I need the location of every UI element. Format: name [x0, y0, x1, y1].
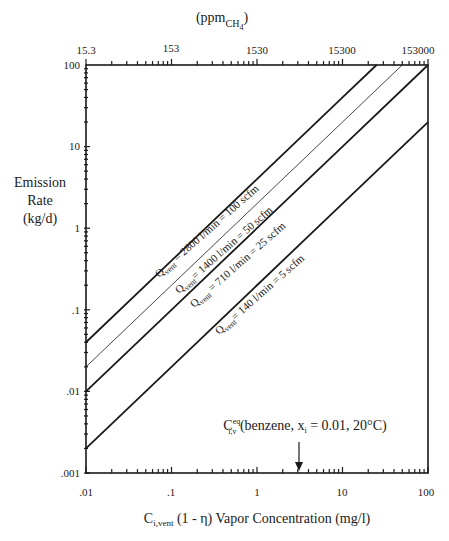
- svg-text:100: 100: [418, 486, 435, 498]
- svg-text:Rate: Rate: [27, 193, 53, 208]
- top-tick-labels: 15.3 153 1530 15300 153000: [76, 42, 435, 56]
- svg-text:1530: 1530: [246, 44, 269, 56]
- svg-text:1: 1: [75, 222, 81, 234]
- y-tick-labels: 100 10 1 .1 .01 .001: [61, 59, 81, 479]
- svg-text:1: 1: [254, 486, 260, 498]
- svg-text:.001: .001: [61, 467, 80, 479]
- plot-frame: [86, 65, 428, 473]
- svg-text:10: 10: [337, 486, 349, 498]
- svg-text:100: 100: [64, 59, 81, 71]
- x-tick-labels: .01 .1 1 10 100: [79, 486, 435, 498]
- svg-text:Ceqi,v (benzene, xi = 0.01, 20: Ceqi,v (benzene, xi = 0.01, 20°C): [223, 417, 387, 436]
- series-line-3: [86, 122, 428, 448]
- series-line-2: [86, 65, 428, 391]
- series-lines: [86, 65, 428, 448]
- arrow-down-icon: [295, 462, 303, 471]
- series-line-1: [86, 65, 402, 367]
- svg-text:.1: .1: [72, 304, 80, 316]
- svg-text:15300: 15300: [328, 44, 356, 56]
- svg-text:.1: .1: [167, 486, 175, 498]
- svg-text:Emission: Emission: [14, 175, 66, 190]
- svg-text:153: 153: [163, 42, 180, 54]
- axis-ticks: [84, 59, 428, 473]
- svg-text:(kg/d): (kg/d): [23, 211, 58, 227]
- y-axis-title: Emission Rate (kg/d): [14, 175, 66, 227]
- svg-text:10: 10: [69, 140, 81, 152]
- emission-rate-chart: (ppmCH4) 15.3 153 1530 15300 153000 100 …: [0, 0, 449, 541]
- svg-text:15.3: 15.3: [76, 44, 96, 56]
- top-axis-title: (ppmCH4): [196, 10, 248, 32]
- svg-text:.01: .01: [66, 385, 80, 397]
- benzene-annotation: Ceqi,v (benzene, xi = 0.01, 20°C): [223, 417, 387, 471]
- series-labels: Qvent = 2800 l/min = 100 scfm Qvent= 140…: [152, 182, 308, 339]
- svg-text:153000: 153000: [402, 44, 436, 56]
- x-axis-title: Ci,vent (1 - η) Vapor Concentration (mg/…: [144, 511, 371, 528]
- svg-text:.01: .01: [79, 486, 93, 498]
